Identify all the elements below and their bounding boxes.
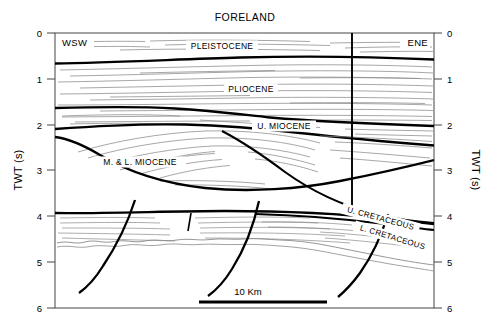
unit-label-pliocene: PLIOCENE [228, 84, 273, 94]
tick-label-left-6: 6 [37, 303, 42, 314]
tick-label-left-0: 0 [37, 28, 42, 39]
tick-label-left-3: 3 [37, 165, 42, 176]
tick-label-left-1: 1 [37, 74, 42, 85]
tick-label-right-1: 1 [447, 74, 452, 85]
tick-label-left-2: 2 [37, 120, 42, 131]
tick-label-left-4: 4 [37, 211, 42, 222]
unit-label-u-miocene: U. MIOCENE [257, 121, 311, 131]
tick-label-right-2: 2 [447, 120, 452, 131]
tick-label-right-5: 5 [447, 257, 452, 268]
tick-label-right-0: 0 [447, 28, 452, 39]
tick-label-right-3: 3 [447, 165, 452, 176]
tick-label-left-5: 5 [37, 257, 42, 268]
unit-label-pleistocene: PLEISTOCENE [191, 41, 254, 51]
tick-label-right-6: 6 [447, 303, 452, 314]
right-axis-title: TWT (s) [470, 150, 482, 191]
tick-label-right-4: 4 [447, 211, 452, 222]
scale-bar-label: 10 Km [234, 286, 262, 297]
figure-title: FORELAND [215, 11, 275, 23]
cross-section-canvas: FORELAND 0 1 2 3 4 5 6 TWT (s) [0, 0, 490, 330]
left-axis-title: TWT (s) [12, 150, 24, 191]
seismic-cross-section-figure: FORELAND 0 1 2 3 4 5 6 TWT (s) [0, 0, 490, 330]
direction-label-wsw: WSW [62, 37, 87, 48]
unit-label-m-l-miocene: M. & L. MIOCENE [103, 157, 176, 167]
direction-label-ene: ENE [408, 37, 428, 48]
